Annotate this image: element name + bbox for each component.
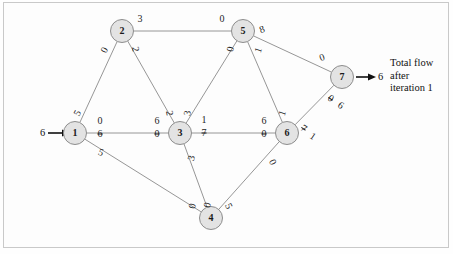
annotation-line-3: iteration 1 [390, 82, 433, 95]
label-3-1-new: 6 [155, 115, 160, 126]
label-3-6-new: 1 [202, 114, 207, 125]
diagram-canvas: 1234567 050660503022031760301180500671 6… [0, 0, 453, 254]
label-3-1-old: 0 [155, 128, 160, 139]
sink-outflow-value: 6 [378, 71, 383, 82]
node-label-6: 6 [279, 126, 295, 139]
node-label-2: 2 [114, 24, 130, 37]
source-inflow-value: 6 [40, 127, 45, 138]
label-1-3-old: 6 [98, 128, 103, 139]
edge-3-4 [184, 144, 207, 207]
label-6-3-new: 6 [262, 115, 267, 126]
node-label-5: 5 [235, 24, 251, 37]
node-label-7: 7 [334, 70, 350, 83]
edges-group [80, 31, 334, 212]
annotation-line-1: Total flow [390, 57, 433, 70]
label-3-6-old: 7 [202, 127, 207, 138]
node-label-4: 4 [203, 211, 219, 224]
node-label-3: 3 [172, 126, 188, 139]
label-2-5-near2: 3 [138, 13, 143, 24]
label-2-5-near5: 0 [220, 13, 225, 24]
total-flow-annotation: Total flow after iteration 1 [390, 57, 433, 95]
node-label-1: 1 [67, 126, 83, 139]
edge-4-6 [219, 142, 280, 210]
sink-outflow-arrowhead [368, 73, 376, 80]
edge-1-2 [80, 41, 117, 122]
label-1-3-new: 0 [98, 115, 103, 126]
label-6-3-old: 0 [262, 128, 267, 139]
annotation-line-2: after [390, 70, 433, 83]
edge-6-7 [295, 85, 334, 125]
edge-3-5 [186, 41, 237, 123]
